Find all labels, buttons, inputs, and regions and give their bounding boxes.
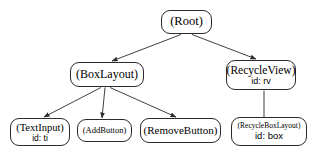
node-root-class-label: (Root) [170,15,203,28]
node-removebutton[interactable]: (RemoveButton) [140,118,221,143]
node-textinput[interactable]: (TextInput) id: ti [10,118,70,146]
edge-root-recycleview [192,35,256,60]
node-addbutton[interactable]: (AddButton) [77,119,132,142]
node-boxlayout-class-label: (BoxLayout) [76,68,138,81]
node-removebutton-class-label: (RemoveButton) [144,125,218,137]
node-recycleview-id-label: id: rv [251,77,271,86]
node-recycleboxlayout-class-label: (RecycleBoxLayout) [238,122,301,130]
node-recycleview[interactable]: (RecycleView) id: rv [226,60,296,90]
node-recycleview-class-label: (RecycleView) [227,64,296,76]
node-boxlayout[interactable]: (BoxLayout) [70,62,144,87]
node-textinput-class-label: (TextInput) [16,122,64,133]
edge-boxlayout-textinput [44,88,101,118]
node-recycleboxlayout-id-label: id: box [255,131,283,141]
node-root[interactable]: (Root) [161,10,212,34]
node-recycleboxlayout[interactable]: (RecycleBoxLayout) id: box [231,117,307,146]
node-addbutton-class-label: (AddButton) [83,126,126,135]
node-textinput-id-label: id: ti [32,134,48,143]
widget-tree-diagram: (Root) (BoxLayout) (RecycleView) id: rv … [0,0,315,153]
edge-boxlayout-addbutton [102,88,105,119]
edge-boxlayout-removebutton [110,88,176,118]
edge-root-boxlayout [112,35,181,62]
